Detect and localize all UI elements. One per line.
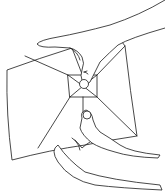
origami-drawing xyxy=(0,0,168,195)
thumb-upper-nail xyxy=(80,80,89,89)
origami-illustration: Line drawing of two hands folding a squa… xyxy=(0,0,168,195)
thumb-lower-nail xyxy=(83,111,91,119)
paper-sheet xyxy=(7,42,137,160)
